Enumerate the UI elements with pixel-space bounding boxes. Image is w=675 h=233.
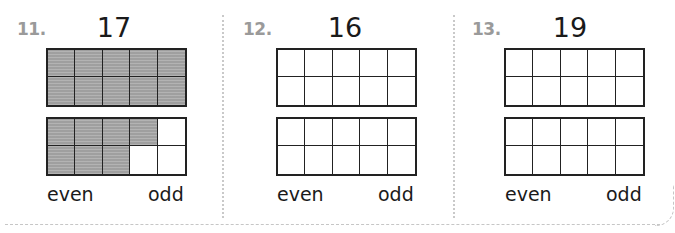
empty-cell[interactable] bbox=[561, 119, 588, 146]
ten-frame-bottom bbox=[504, 117, 645, 176]
empty-cell[interactable] bbox=[533, 119, 560, 146]
empty-cell[interactable] bbox=[561, 77, 588, 104]
choice-even[interactable]: even bbox=[505, 183, 552, 205]
empty-cell[interactable] bbox=[616, 119, 643, 146]
empty-cell[interactable] bbox=[506, 146, 533, 173]
empty-cell[interactable] bbox=[588, 50, 615, 77]
empty-cell[interactable] bbox=[616, 146, 643, 173]
empty-cell[interactable] bbox=[588, 146, 615, 173]
empty-cell[interactable] bbox=[616, 77, 643, 104]
empty-cell[interactable] bbox=[533, 77, 560, 104]
empty-cell[interactable] bbox=[561, 50, 588, 77]
empty-cell[interactable] bbox=[506, 77, 533, 104]
ten-frame-top bbox=[504, 48, 645, 107]
empty-cell[interactable] bbox=[506, 119, 533, 146]
empty-cell[interactable] bbox=[588, 119, 615, 146]
problem-number: 13. bbox=[472, 19, 501, 39]
empty-cell[interactable] bbox=[616, 50, 643, 77]
bottom-dashed-border bbox=[5, 224, 660, 225]
empty-cell[interactable] bbox=[533, 50, 560, 77]
empty-cell[interactable] bbox=[533, 146, 560, 173]
empty-cell[interactable] bbox=[588, 77, 615, 104]
empty-cell[interactable] bbox=[561, 146, 588, 173]
target-number: 19 bbox=[540, 12, 600, 43]
choice-odd[interactable]: odd bbox=[606, 183, 642, 205]
empty-cell[interactable] bbox=[506, 50, 533, 77]
problem-13: 13. 19 even odd bbox=[0, 0, 675, 233]
